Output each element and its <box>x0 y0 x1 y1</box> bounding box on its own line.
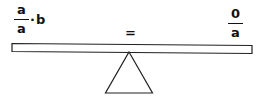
balance-scale-diagram: a a · b = 0 a <box>0 0 262 99</box>
balance-beam <box>12 44 252 54</box>
scale-graphic <box>0 0 262 99</box>
fulcrum-triangle <box>106 52 153 93</box>
